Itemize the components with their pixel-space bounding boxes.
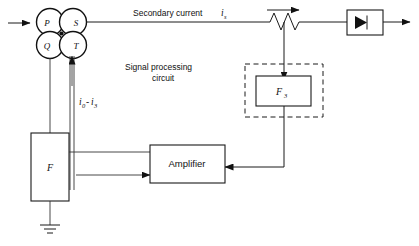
f3-box-symbol: F: [275, 86, 283, 97]
f-block: F: [31, 133, 69, 201]
secondary-current-label: Secondary current i s: [133, 8, 227, 20]
f3-to-amplifier-wire: [225, 106, 284, 167]
sensor-circle-cluster: P S Q T: [37, 9, 87, 59]
cluster-center-junction: [59, 31, 63, 35]
signal-processing-line2: circuit: [152, 73, 175, 83]
f3-block: F 3: [256, 76, 311, 106]
circle-s-label: S: [74, 18, 79, 28]
sensor-current-bus: [70, 56, 74, 190]
f-box-label: F: [46, 162, 54, 173]
amplifier-box-label: Amplifier: [169, 158, 206, 169]
sensor-currents-subscript-2: 3: [93, 102, 98, 109]
signal-processing-line1: Signal processing: [125, 62, 192, 72]
diode-symbol: [347, 10, 383, 35]
sensor-currents-label: i 0 - i 3: [79, 97, 98, 109]
circuit-diagram-canvas: P S Q T Secondary current i s: [0, 0, 419, 246]
f-to-amplifier-wires: [69, 152, 150, 175]
secondary-current-subscript: s: [224, 13, 227, 20]
amplifier-block: Amplifier: [150, 145, 225, 183]
circle-p-label: P: [43, 18, 50, 28]
secondary-current-text: Secondary current: [133, 8, 203, 18]
sensor-currents-dash: -: [86, 97, 89, 107]
ground-symbol: [40, 201, 60, 233]
signal-processing-circuit-label: Signal processing circuit: [125, 62, 192, 83]
circle-q-label: Q: [44, 41, 51, 51]
